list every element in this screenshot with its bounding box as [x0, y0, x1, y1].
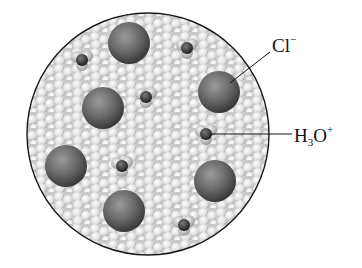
chloride-ion — [45, 145, 87, 187]
hydronium-label: H3O+ — [294, 124, 333, 148]
chloride-ion — [198, 71, 240, 113]
chloride-ion — [194, 160, 236, 202]
chloride-ion — [82, 87, 124, 129]
chloride-label: Cl− — [272, 34, 296, 55]
chloride-ion — [108, 22, 150, 64]
chloride-ion — [103, 190, 145, 232]
